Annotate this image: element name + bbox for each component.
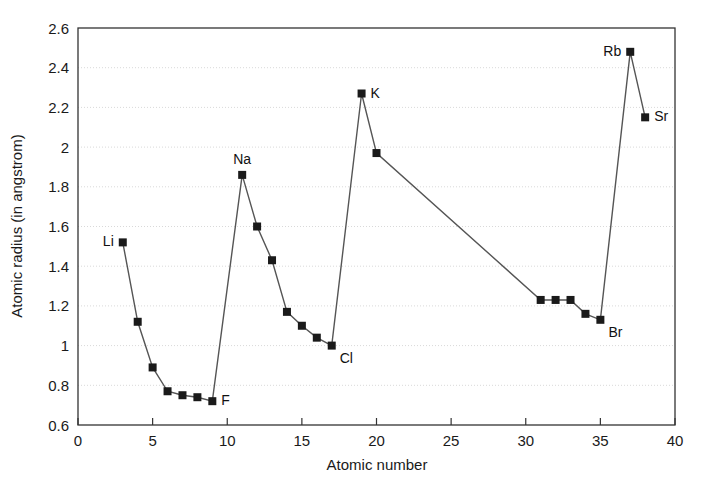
y-tick-label: 0.8 [48,377,69,394]
data-point-marker [641,113,649,121]
y-tick-label: 1.6 [48,218,69,235]
data-point-marker [537,296,545,304]
point-label: Rb [603,43,621,59]
x-tick-label: 30 [517,432,534,449]
data-point-marker [626,48,634,56]
data-point-marker [596,316,604,324]
x-tick-label: 35 [592,432,609,449]
y-tick-label: 0.6 [48,417,69,434]
data-point-marker [552,296,560,304]
y-tick-label: 2.4 [48,59,69,76]
data-point-marker [193,393,201,401]
data-point-marker [328,342,336,350]
atomic-radius-chart: 0510152025303540 0.60.811.21.41.61.822.2… [0,0,707,489]
y-tick-label: 1.2 [48,297,69,314]
y-tick-label: 2 [61,139,69,156]
x-axis-title: Atomic number [327,456,428,473]
x-tick-label: 0 [74,432,82,449]
y-tick-label: 2.2 [48,99,69,116]
x-tick-label: 15 [294,432,311,449]
data-point-marker [134,318,142,326]
data-point-marker [268,256,276,264]
data-point-marker [164,387,172,395]
y-tick-label: 2.6 [48,20,69,37]
x-tick-label: 5 [148,432,156,449]
data-point-marker [358,90,366,98]
point-label: K [371,85,381,101]
data-point-marker [313,334,321,342]
x-tick-label: 40 [667,432,684,449]
data-point-marker [178,391,186,399]
data-point-marker [208,397,216,405]
y-tick-label: 1 [61,337,69,354]
point-label: Na [233,151,251,167]
x-tick-label: 10 [219,432,236,449]
x-tick-label: 25 [443,432,460,449]
y-tick-label: 1.4 [48,258,69,275]
data-point-marker [119,238,127,246]
point-label: Br [608,324,622,340]
data-point-marker [581,310,589,318]
y-axis-title: Atomic radius (in angstrom) [8,134,25,317]
data-point-marker [238,171,246,179]
data-point-marker [298,322,306,330]
x-tick-label: 20 [368,432,385,449]
chart-canvas: 0510152025303540 0.60.811.21.41.61.822.2… [0,0,707,489]
point-label: Li [103,233,114,249]
data-point-marker [567,296,575,304]
data-point-marker [283,308,291,316]
point-label: F [221,392,230,408]
data-point-marker [253,223,261,231]
y-tick-label: 1.8 [48,178,69,195]
data-point-marker [149,363,157,371]
data-point-marker [373,149,381,157]
point-label: Cl [340,350,353,366]
point-label: Sr [654,108,668,124]
